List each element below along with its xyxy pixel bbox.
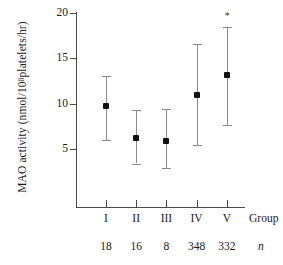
significance-asterisk: * xyxy=(223,11,232,21)
errorbar-cap-upper xyxy=(132,110,141,111)
data-point-marker[interactable] xyxy=(224,72,230,78)
mao-activity-error-bar-chart: MAO activity (nmol/108 platelets/hr) 201… xyxy=(0,0,283,265)
y-tick-mark xyxy=(70,104,76,105)
y-axis-title-suffix: platelets/hr) xyxy=(16,21,28,77)
y-tick-label: 5 xyxy=(28,143,68,155)
errorbar-cap-lower xyxy=(223,125,232,126)
y-tick-mark xyxy=(70,13,76,14)
x-axis-line xyxy=(76,207,245,208)
data-point-marker[interactable] xyxy=(194,92,200,98)
errorbar-cap-upper xyxy=(102,76,111,77)
y-tick-mark xyxy=(70,58,76,59)
y-tick-label: 20 xyxy=(28,7,68,19)
y-tick-label: 10 xyxy=(28,98,68,110)
n-value-label: 332 xyxy=(207,240,247,254)
y-axis-line xyxy=(76,12,77,208)
errorbar-cap-lower xyxy=(193,145,202,146)
data-point-marker[interactable] xyxy=(163,138,169,144)
data-point-marker[interactable] xyxy=(103,103,109,109)
y-tick-mark xyxy=(70,149,76,150)
data-point-marker[interactable] xyxy=(133,135,139,141)
category-label: V xyxy=(207,212,247,226)
errorbar-cap-upper xyxy=(193,44,202,45)
errorbar-cap-lower xyxy=(162,168,171,169)
errorbar-cap-upper xyxy=(162,109,171,110)
n-row-title: n xyxy=(258,240,264,254)
group-row-title: Group xyxy=(249,212,278,226)
y-tick-label: 15 xyxy=(28,52,68,64)
errorbar-cap-lower xyxy=(132,164,141,165)
errorbar-cap-lower xyxy=(102,140,111,141)
errorbar-cap-upper xyxy=(223,27,232,28)
y-axis-title-prefix: MAO activity (nmol/10 xyxy=(16,81,28,192)
